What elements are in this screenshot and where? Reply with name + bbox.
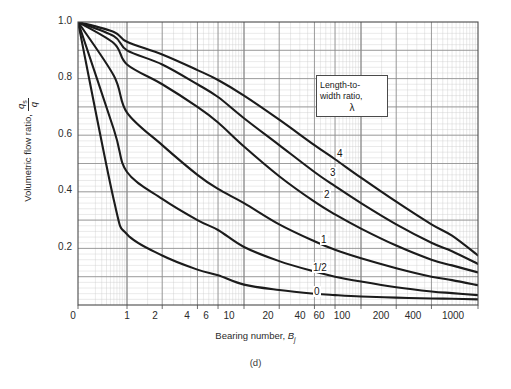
curve-label-1-2: 1/2: [312, 262, 328, 273]
curve-label-2: 2: [323, 189, 331, 200]
curve-label-0: 0: [313, 286, 321, 297]
figure-container: 1.00.80.60.40.2 012461020406010020040010…: [0, 0, 511, 389]
curve-label-4: 4: [336, 148, 344, 159]
curve-label-3: 3: [329, 167, 337, 178]
curve-labels: 43211/20: [0, 0, 511, 389]
figure-caption: (d): [0, 357, 511, 368]
curve-label-1: 1: [320, 234, 328, 245]
